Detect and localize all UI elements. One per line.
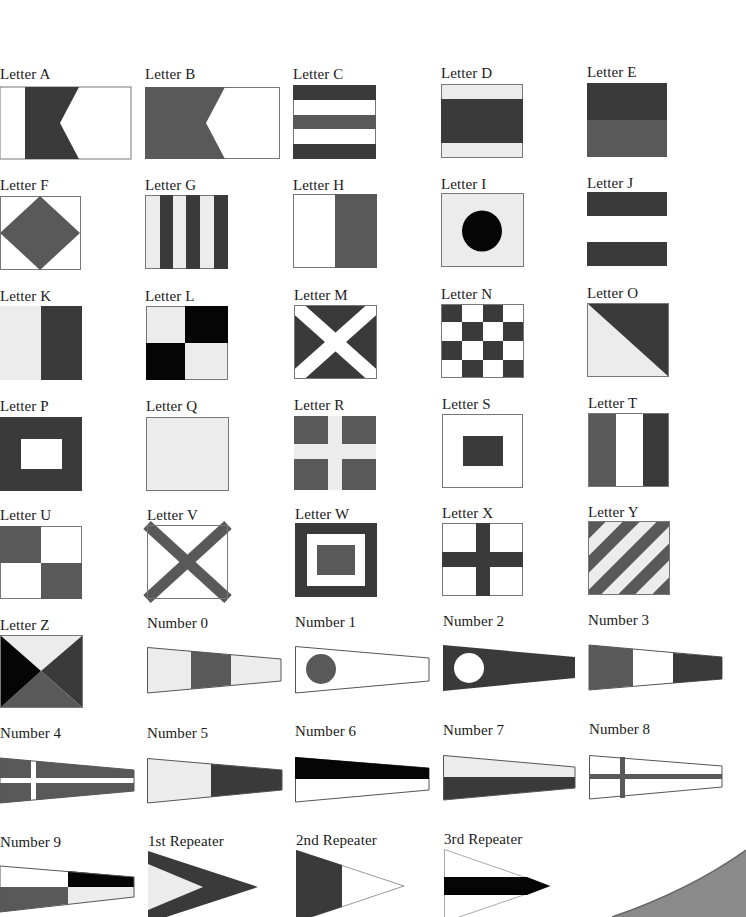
label-number-8: Number 8 [589, 721, 650, 738]
flag-letter-c-icon [293, 85, 376, 159]
label-letter-t: Letter T [588, 395, 637, 412]
label-letter-o: Letter O [587, 285, 638, 302]
label-letter-h: Letter H [293, 177, 344, 194]
label-letter-n: Letter N [441, 286, 492, 303]
flag-number-3-icon [589, 645, 723, 691]
label-letter-m: Letter M [294, 287, 348, 304]
label-letter-e: Letter E [587, 64, 637, 81]
label-letter-r: Letter R [294, 397, 344, 414]
label-letter-y: Letter Y [588, 504, 639, 521]
flag-letter-q-icon [146, 417, 229, 491]
label-letter-z: Letter Z [0, 617, 50, 634]
label-number-4: Number 4 [0, 725, 61, 742]
flag-letter-f-icon [0, 196, 82, 270]
flag-letter-l-icon [146, 306, 228, 380]
flag-letter-d-icon [441, 84, 523, 158]
flag-letter-v-icon [147, 525, 228, 599]
label-letter-k: Letter K [0, 288, 51, 305]
flag-letter-k-icon [0, 306, 82, 380]
label-repeater-1: 1st Repeater [148, 833, 224, 850]
flag-repeater-1-icon [148, 851, 260, 917]
flag-number-2-icon [443, 645, 576, 692]
flag-number-6-icon [295, 757, 431, 803]
label-letter-j: Letter J [587, 175, 633, 192]
label-letter-w: Letter W [295, 506, 349, 523]
flag-letter-w-icon [295, 523, 377, 597]
flag-repeater-3-icon [444, 849, 554, 917]
label-letter-l: Letter L [145, 288, 195, 305]
flag-repeater-2-icon [296, 850, 406, 917]
label-repeater-3: 3rd Repeater [444, 831, 522, 848]
flag-letter-b-icon [145, 87, 280, 159]
signal-flags-page: Letter A Letter B Letter C Letter D Lett… [0, 0, 746, 917]
flag-letter-x-icon [442, 523, 523, 596]
label-letter-i: Letter I [441, 176, 486, 193]
label-letter-f: Letter F [0, 177, 49, 194]
flag-letter-i-icon [441, 193, 524, 267]
label-letter-b: Letter B [145, 66, 195, 83]
label-number-1: Number 1 [295, 614, 356, 631]
page-curl-shadow-icon [590, 830, 746, 917]
label-letter-c: Letter C [293, 66, 343, 83]
label-number-3: Number 3 [588, 612, 649, 629]
flag-letter-e-icon [587, 83, 667, 157]
label-letter-d: Letter D [441, 65, 492, 82]
flag-letter-u-icon [0, 526, 82, 599]
label-letter-x: Letter X [442, 505, 493, 522]
flag-letter-s-icon [442, 414, 523, 488]
label-letter-q: Letter Q [146, 398, 197, 415]
flag-number-0-icon [147, 647, 282, 694]
label-number-7: Number 7 [443, 722, 504, 739]
label-letter-s: Letter S [442, 396, 491, 413]
label-number-2: Number 2 [443, 613, 504, 630]
flag-letter-h-icon [293, 194, 377, 268]
label-letter-u: Letter U [0, 507, 51, 524]
flag-letter-y-icon [588, 521, 670, 595]
flag-number-9-icon [0, 866, 136, 917]
flag-number-8-icon [589, 755, 723, 800]
flag-letter-z-icon [0, 635, 83, 708]
flag-letter-a-icon [0, 87, 132, 160]
flag-number-7-icon [443, 755, 576, 801]
flag-number-4-icon [0, 758, 135, 804]
label-letter-v: Letter V [147, 507, 198, 524]
label-number-6: Number 6 [295, 723, 356, 740]
flag-letter-t-icon [588, 413, 669, 487]
flag-number-1-icon [295, 646, 430, 694]
flag-letter-n-icon [441, 304, 524, 378]
flag-letter-j-icon [587, 192, 667, 266]
flag-letter-r-icon [294, 416, 376, 490]
label-letter-a: Letter A [0, 66, 50, 83]
label-repeater-2: 2nd Repeater [296, 832, 377, 849]
flag-letter-m-icon [294, 305, 377, 379]
flag-letter-g-icon [145, 195, 228, 269]
flag-number-5-icon [147, 758, 283, 804]
label-number-0: Number 0 [147, 615, 208, 632]
label-number-5: Number 5 [147, 725, 208, 742]
flag-letter-o-icon [587, 303, 669, 377]
flag-letter-p-icon [0, 417, 82, 491]
label-letter-p: Letter P [0, 398, 49, 415]
label-letter-g: Letter G [145, 177, 196, 194]
label-number-9: Number 9 [0, 834, 61, 851]
